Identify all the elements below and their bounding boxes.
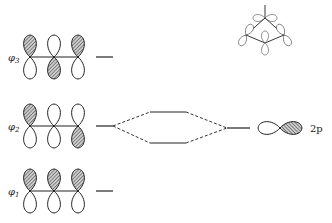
orbital-phi1: φ1 [8,169,113,213]
atomic-orbital-2p: 2p [258,122,323,135]
orbital-phi2: φ2 [8,104,113,148]
label-phi3: φ3 [8,52,20,65]
label-2p: 2p [310,123,323,134]
orbital-phi3: φ3 [8,35,113,79]
mo-diagram: φ3 φ2 2p φ1 [0,0,332,223]
allyl-structure-icon [237,5,293,55]
label-phi2: φ2 [8,121,20,134]
label-phi1: φ1 [8,186,19,199]
splitting-lines [113,112,250,143]
